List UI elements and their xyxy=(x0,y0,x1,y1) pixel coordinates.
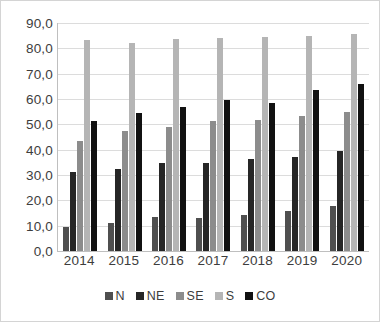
bar-group-2014 xyxy=(63,23,97,251)
y-axis-tick-label: 80,0 xyxy=(26,41,53,56)
bar-NE-2018[interactable] xyxy=(248,159,254,251)
bar-CO-2019[interactable] xyxy=(313,90,319,251)
bar-N-2015[interactable] xyxy=(108,223,114,251)
bar-S-2016[interactable] xyxy=(173,39,179,251)
y-axis-tick-label: 90,0 xyxy=(26,16,53,31)
bar-S-2014[interactable] xyxy=(84,40,90,251)
plot-area xyxy=(57,23,369,252)
bar-S-2018[interactable] xyxy=(262,37,268,251)
bar-S-2020[interactable] xyxy=(351,34,357,251)
legend-label: N xyxy=(116,289,125,303)
bar-CO-2018[interactable] xyxy=(269,103,275,251)
x-axis-tick-label: 2015 xyxy=(102,253,147,268)
legend-swatch-icon xyxy=(215,292,223,300)
chart-legend: NNESESCO xyxy=(1,289,379,303)
bar-N-2016[interactable] xyxy=(152,217,158,251)
bar-S-2019[interactable] xyxy=(306,36,312,251)
bar-CO-2015[interactable] xyxy=(136,113,142,251)
legend-item-CO[interactable]: CO xyxy=(245,289,275,303)
bar-CO-2016[interactable] xyxy=(180,107,186,251)
bar-N-2019[interactable] xyxy=(285,211,291,251)
bar-N-2020[interactable] xyxy=(330,206,336,251)
legend-item-SE[interactable]: SE xyxy=(176,289,204,303)
y-axis-tick-label: 10,0 xyxy=(26,218,53,233)
bar-N-2014[interactable] xyxy=(63,227,69,251)
y-axis: 0,010,020,030,040,050,060,070,080,090,0 xyxy=(9,23,53,251)
x-axis-tick-label: 2018 xyxy=(235,253,280,268)
bar-group-2019 xyxy=(285,23,319,251)
y-axis-tick-label: 0,0 xyxy=(34,244,53,259)
y-axis-tick-label: 40,0 xyxy=(26,142,53,157)
plot-area-wrapper: 0,010,020,030,040,050,060,070,080,090,0 … xyxy=(1,1,379,283)
bar-SE-2020[interactable] xyxy=(344,112,350,251)
y-axis-tick-label: 60,0 xyxy=(26,91,53,106)
legend-label: SE xyxy=(187,289,204,303)
legend-label: NE xyxy=(147,289,165,303)
bar-CO-2020[interactable] xyxy=(358,84,364,251)
bar-NE-2017[interactable] xyxy=(203,163,209,251)
x-axis-tick-label: 2019 xyxy=(280,253,325,268)
x-axis-tick-label: 2016 xyxy=(146,253,191,268)
bar-SE-2015[interactable] xyxy=(122,131,128,251)
bar-NE-2019[interactable] xyxy=(292,157,298,251)
bar-group-2018 xyxy=(241,23,275,251)
bar-groups xyxy=(58,23,369,251)
legend-swatch-icon xyxy=(176,292,184,300)
legend-item-S[interactable]: S xyxy=(215,289,235,303)
bar-NE-2014[interactable] xyxy=(70,172,76,251)
y-axis-tick-label: 30,0 xyxy=(26,167,53,182)
bar-N-2017[interactable] xyxy=(196,218,202,251)
y-axis-tick-label: 50,0 xyxy=(26,117,53,132)
bar-group-2016 xyxy=(152,23,186,251)
bar-NE-2015[interactable] xyxy=(115,169,121,251)
bar-group-2020 xyxy=(330,23,364,251)
bar-SE-2014[interactable] xyxy=(77,141,83,251)
bar-S-2015[interactable] xyxy=(129,43,135,251)
bar-CO-2014[interactable] xyxy=(91,121,97,251)
bar-N-2018[interactable] xyxy=(241,215,247,251)
x-axis-tick-label: 2017 xyxy=(191,253,236,268)
legend-item-N[interactable]: N xyxy=(105,289,125,303)
bar-NE-2020[interactable] xyxy=(337,151,343,251)
bar-SE-2019[interactable] xyxy=(299,116,305,251)
bar-S-2017[interactable] xyxy=(217,38,223,251)
x-axis-tick-label: 2020 xyxy=(324,253,369,268)
x-axis: 2014201520162017201820192020 xyxy=(57,253,369,268)
y-axis-tick-label: 70,0 xyxy=(26,66,53,81)
legend-label: CO xyxy=(256,289,275,303)
bar-SE-2018[interactable] xyxy=(255,120,261,251)
bar-SE-2016[interactable] xyxy=(166,127,172,251)
legend-item-NE[interactable]: NE xyxy=(136,289,165,303)
x-axis-tick-label: 2014 xyxy=(57,253,102,268)
legend-label: S xyxy=(226,289,235,303)
bar-chart: 0,010,020,030,040,050,060,070,080,090,0 … xyxy=(0,0,380,322)
legend-swatch-icon xyxy=(245,292,253,300)
y-axis-tick-label: 20,0 xyxy=(26,193,53,208)
legend-swatch-icon xyxy=(136,292,144,300)
legend-swatch-icon xyxy=(105,292,113,300)
bar-group-2017 xyxy=(196,23,230,251)
bar-SE-2017[interactable] xyxy=(210,121,216,251)
bar-NE-2016[interactable] xyxy=(159,163,165,251)
bar-CO-2017[interactable] xyxy=(224,100,230,251)
bar-group-2015 xyxy=(108,23,142,251)
